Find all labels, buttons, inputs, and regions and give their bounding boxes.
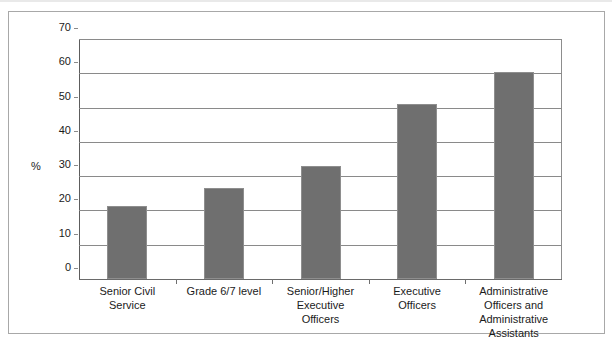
y-tick-mark-0 — [74, 268, 78, 269]
category-label-line: Grade 6/7 level — [177, 284, 272, 298]
y-tick-label-20: 20 — [27, 193, 71, 204]
category-label-line: Officers and — [466, 298, 561, 312]
y-tick-label-0: 0 — [27, 262, 71, 273]
x-axis-category-label: Senior CivilService — [79, 284, 176, 346]
scan-artifact-line — [0, 0, 612, 2]
category-label-line: Administrative — [466, 312, 561, 326]
y-tick-mark-60 — [74, 62, 78, 63]
x-axis-category-label: AdministrativeOfficers andAdministrative… — [465, 284, 562, 346]
category-label-line: Assistants — [466, 326, 561, 340]
bar[interactable] — [494, 72, 534, 279]
y-tick-mark-10 — [74, 234, 78, 235]
bar[interactable] — [397, 104, 437, 279]
x-axis-category-label: ExecutiveOfficers — [369, 284, 466, 346]
bar[interactable] — [204, 188, 244, 279]
y-tick-label-10: 10 — [27, 228, 71, 239]
gridline-0 — [79, 279, 562, 280]
y-tick-label-70: 70 — [27, 22, 71, 33]
category-label-line: Senior Civil — [80, 284, 175, 298]
y-tick-mark-70 — [74, 28, 78, 29]
chart-screenshot: % 010203040506070 Senior CivilServiceGra… — [0, 0, 612, 346]
category-label-line: Officers — [273, 312, 368, 326]
figure-frame: % 010203040506070 Senior CivilServiceGra… — [8, 11, 605, 334]
y-tick-label-40: 40 — [27, 125, 71, 136]
y-tick-mark-30 — [74, 165, 78, 166]
y-tick-mark-50 — [74, 97, 78, 98]
category-label-line: Service — [80, 298, 175, 312]
bars-group — [79, 39, 562, 279]
bar[interactable] — [107, 206, 147, 279]
category-label-line: Executive — [273, 298, 368, 312]
y-tick-label-60: 60 — [27, 56, 71, 67]
bar[interactable] — [301, 166, 341, 279]
y-tick-mark-20 — [74, 199, 78, 200]
category-label-line: Officers — [370, 298, 465, 312]
category-label-line: Senior/Higher — [273, 284, 368, 298]
x-axis-category-label: Senior/HigherExecutiveOfficers — [272, 284, 369, 346]
category-label-line: Executive — [370, 284, 465, 298]
x-axis-category-label: Grade 6/7 level — [176, 284, 273, 346]
y-tick-mark-40 — [74, 131, 78, 132]
y-tick-label-30: 30 — [27, 159, 71, 170]
x-axis-category-labels: Senior CivilServiceGrade 6/7 levelSenior… — [79, 284, 562, 346]
category-label-line: Administrative — [466, 284, 561, 298]
plot-area — [79, 39, 562, 279]
y-tick-label-50: 50 — [27, 91, 71, 102]
